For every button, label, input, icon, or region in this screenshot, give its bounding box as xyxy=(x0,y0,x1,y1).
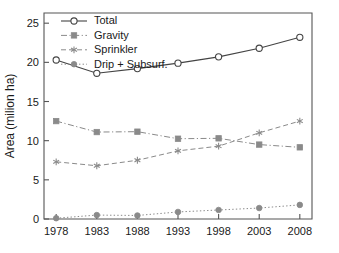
data-point xyxy=(216,136,221,141)
data-point xyxy=(135,213,141,219)
x-axis-ticks: 1978198319881993199820032008 xyxy=(44,214,312,237)
x-tick-label: 1998 xyxy=(206,225,230,237)
data-point xyxy=(94,70,100,76)
chart-figure: Area (milion ha) 0510152025 197819831988… xyxy=(0,0,339,253)
x-tick-label: 2003 xyxy=(247,225,271,237)
data-point xyxy=(53,118,58,123)
line-chart: Area (milion ha) 0510152025 197819831988… xyxy=(0,0,339,253)
legend-marker xyxy=(71,18,77,24)
legend-label: Total xyxy=(94,14,117,26)
legend-marker xyxy=(71,33,76,38)
series-line xyxy=(56,121,300,147)
chart-legend: TotalGravitySprinklerDrip + Subsurf. xyxy=(61,14,168,69)
y-tick-label: 10 xyxy=(27,135,39,147)
legend-label: Gravity xyxy=(94,29,129,41)
legend-label: Drip + Subsurf. xyxy=(94,58,168,70)
data-point xyxy=(216,54,222,60)
x-tick-label: 2008 xyxy=(288,225,312,237)
series-sprinkler xyxy=(53,118,303,169)
data-point xyxy=(94,129,99,134)
y-tick-label: 25 xyxy=(27,17,39,29)
legend-label: Sprinkler xyxy=(94,43,138,55)
data-series-layer xyxy=(53,34,303,221)
y-axis-title-label: Area (milion ha) xyxy=(3,74,17,159)
y-tick-label: 15 xyxy=(27,96,39,108)
data-point xyxy=(216,207,222,213)
data-point xyxy=(53,57,59,63)
data-point xyxy=(256,205,262,211)
data-point xyxy=(175,60,181,66)
legend-item-sprinkler[interactable]: Sprinkler xyxy=(61,43,138,55)
series-gravity xyxy=(53,118,302,150)
y-tick-label: 5 xyxy=(33,174,39,186)
series-total xyxy=(53,34,303,76)
data-point xyxy=(94,212,100,218)
data-point xyxy=(297,202,303,208)
y-tick-label: 20 xyxy=(27,56,39,68)
data-point xyxy=(297,118,303,125)
data-point xyxy=(175,136,180,141)
data-point xyxy=(297,145,302,150)
legend-item-gravity[interactable]: Gravity xyxy=(61,29,129,41)
data-point xyxy=(53,215,59,221)
legend-marker xyxy=(71,61,77,67)
x-tick-label: 1988 xyxy=(125,225,149,237)
y-axis-title: Area (milion ha) xyxy=(3,74,17,159)
plot-border xyxy=(44,13,312,219)
x-tick-label: 1978 xyxy=(44,225,68,237)
x-tick-label: 1983 xyxy=(85,225,109,237)
data-point xyxy=(256,45,262,51)
data-point xyxy=(256,129,262,136)
series-line xyxy=(56,121,300,166)
y-tick-label: 0 xyxy=(33,213,39,225)
legend-item-total[interactable]: Total xyxy=(61,14,117,26)
series-line xyxy=(56,37,300,73)
data-point xyxy=(257,142,262,147)
y-axis-ticks: 0510152025 xyxy=(27,17,49,225)
data-point xyxy=(297,34,303,40)
legend-item-drip-subsurf[interactable]: Drip + Subsurf. xyxy=(61,58,168,70)
data-point xyxy=(135,129,140,134)
axis-frame xyxy=(44,13,312,219)
data-point xyxy=(175,209,181,215)
x-tick-label: 1993 xyxy=(166,225,190,237)
